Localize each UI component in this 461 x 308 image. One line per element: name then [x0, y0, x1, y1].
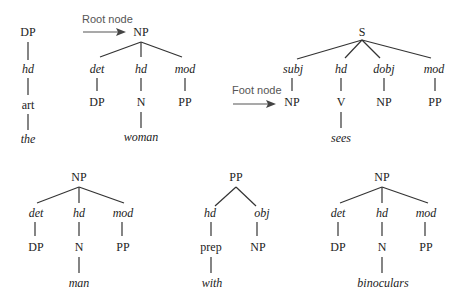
rel-hd: hd: [335, 62, 348, 76]
rel-dobj: dobj: [373, 62, 395, 76]
rel-det: det: [331, 206, 346, 220]
tree-np-binoculars: NP det hd mod DP N PP binoculars: [330, 170, 437, 290]
node-pp-root: PP: [229, 170, 243, 184]
rel-det: det: [29, 206, 44, 220]
edge: [362, 40, 431, 58]
node-n: N: [137, 95, 146, 109]
tree-np-woman: NP det hd mod DP N PP woman: [89, 25, 196, 144]
word-man: man: [69, 276, 90, 290]
rel-det: det: [90, 62, 105, 76]
node-pp: PP: [116, 240, 130, 254]
edge: [37, 187, 79, 203]
word-binoculars: binoculars: [357, 276, 409, 290]
node-s-root: S: [359, 25, 366, 39]
word-woman: woman: [124, 130, 159, 144]
rel-hd: hd: [204, 206, 217, 220]
node-v: V: [337, 95, 346, 109]
rel-hd: hd: [376, 206, 389, 220]
rel-mod: mod: [416, 206, 438, 220]
node-dp: DP: [89, 95, 105, 109]
node-pp: PP: [178, 95, 192, 109]
root-node-label: Root node: [82, 13, 133, 25]
foot-node-label: Foot node: [232, 84, 282, 96]
node-np-root: NP: [133, 25, 149, 39]
rel-subj: subj: [283, 62, 304, 76]
node-np-root: NP: [374, 170, 390, 184]
node-n: N: [75, 240, 84, 254]
rel-mod: mod: [113, 206, 135, 220]
rel-obj: obj: [254, 206, 270, 220]
node-np: NP: [250, 240, 266, 254]
edge: [215, 187, 236, 206]
node-np-dobj: NP: [376, 95, 392, 109]
tree-dp: DP hd art the: [20, 25, 36, 146]
node-pp: PP: [419, 240, 433, 254]
edge: [79, 187, 124, 203]
word-sees: sees: [331, 131, 351, 145]
rel-mod: mod: [424, 62, 446, 76]
rel-hd: hd: [73, 206, 86, 220]
edge: [236, 187, 256, 206]
node-pp: PP: [428, 95, 442, 109]
tree-np-man: NP det hd mod DP N PP man: [28, 170, 134, 290]
node-dp-root: DP: [20, 25, 36, 39]
edge: [340, 187, 382, 203]
word-with: with: [202, 276, 223, 290]
edge: [382, 187, 428, 203]
node-art: art: [22, 98, 35, 112]
edge: [100, 42, 141, 57]
rel-hd: hd: [22, 62, 35, 76]
node-dp: DP: [330, 240, 346, 254]
node-np-root: NP: [71, 170, 87, 184]
elementary-trees-diagram: DP hd art the Root node NP det hd mod DP…: [0, 0, 461, 308]
tree-pp-with: PP hd obj prep NP with: [200, 170, 270, 290]
tree-s-sees: S subj hd dobj mod NP V NP PP sees: [283, 25, 445, 145]
node-np-subj: NP: [284, 95, 300, 109]
rel-hd: hd: [135, 62, 148, 76]
node-prep: prep: [200, 240, 221, 254]
node-dp: DP: [28, 240, 44, 254]
word-the: the: [21, 132, 36, 146]
rel-mod: mod: [175, 62, 197, 76]
edge: [141, 42, 182, 57]
node-n: N: [378, 240, 387, 254]
root-node-annotation: Root node: [82, 13, 133, 36]
foot-node-annotation: Foot node: [232, 84, 282, 108]
